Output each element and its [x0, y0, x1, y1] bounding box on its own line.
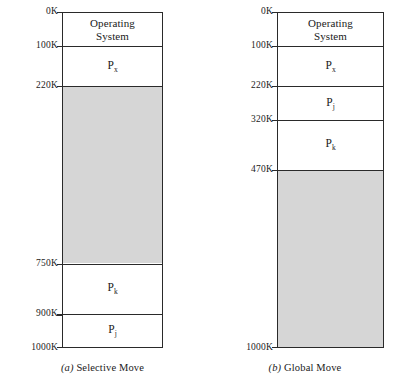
region-label-process-px: Px [325, 59, 335, 75]
region-operating-system: Operating System [63, 13, 162, 46]
region-operating-system: Operating System [278, 13, 383, 46]
address-label-750k: 750K [18, 259, 58, 269]
region-process-pj: Pj [63, 314, 162, 347]
caption-text-a: Selective Move [76, 362, 144, 373]
address-tick-220k [272, 86, 278, 87]
region-process-px: Px [278, 46, 383, 86]
address-label-0k: 0K [20, 7, 58, 17]
caption-index-a: (a) [61, 362, 74, 373]
region-free-space [278, 170, 383, 347]
address-tick-0k [57, 12, 63, 13]
address-label-220k: 220K [233, 81, 273, 91]
address-tick-750k [57, 264, 63, 265]
memory-column-global-move: Operating System Px Pj Pk [277, 12, 384, 348]
region-process-pj: Pj [278, 86, 383, 119]
region-label-process-pk: Pk [325, 137, 335, 153]
address-tick-0k [272, 12, 278, 13]
region-label-operating-system: Operating System [90, 17, 135, 43]
address-tick-320k [272, 120, 278, 121]
panel-global-move: Operating System Px Pj Pk 0K 100K 220K 3… [205, 0, 405, 389]
address-tick-1000k [272, 347, 278, 348]
address-label-0k: 0K [235, 7, 273, 17]
region-label-process-pj: Pj [108, 323, 117, 339]
address-label-1000k: 1000K [228, 343, 273, 353]
address-label-100k: 100K [233, 41, 273, 51]
region-label-process-px: Px [107, 59, 117, 75]
address-tick-100k [57, 46, 63, 47]
address-label-470k: 470K [233, 165, 273, 175]
address-tick-1000k [57, 347, 63, 348]
address-tick-100k [272, 46, 278, 47]
region-label-process-pk: Pk [107, 281, 117, 297]
region-process-pk: Pk [278, 120, 383, 170]
caption-selective-move: (a) Selective Move [0, 362, 205, 373]
caption-global-move: (b) Global Move [205, 362, 405, 373]
address-label-320k: 320K [233, 115, 273, 125]
caption-text-b: Global Move [284, 362, 341, 373]
panel-selective-move: Operating System Px Pk Pj 0K 100K 220K 7… [0, 0, 205, 389]
region-label-operating-system: Operating System [308, 17, 353, 43]
region-label-process-pj: Pj [326, 96, 335, 112]
memory-column-selective-move: Operating System Px Pk Pj [62, 12, 163, 348]
region-free-space [63, 86, 162, 263]
address-tick-220k [57, 86, 63, 87]
address-label-900k: 900K [18, 310, 58, 320]
address-label-220k: 220K [18, 81, 58, 91]
address-label-1000k: 1000K [13, 343, 58, 353]
region-process-px: Px [63, 46, 162, 86]
address-label-100k: 100K [18, 41, 58, 51]
address-tick-470k [272, 170, 278, 171]
region-process-pk: Pk [63, 264, 162, 314]
caption-index-b: (b) [269, 362, 282, 373]
address-tick-900k [57, 314, 63, 315]
